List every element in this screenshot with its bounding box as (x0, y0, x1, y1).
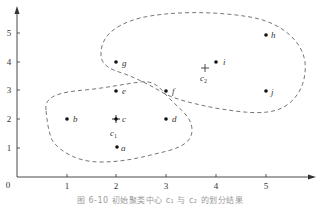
label-j: j (270, 87, 274, 97)
origin-label: 0 (6, 180, 11, 190)
label-h: h (271, 30, 276, 40)
label-b: b (73, 114, 78, 124)
label-c: c (122, 114, 126, 124)
center-c2-cross-icon (201, 64, 209, 72)
y-axis-arrow-icon (15, 6, 20, 14)
label-c1: c1 (110, 128, 117, 139)
point-f (164, 89, 168, 93)
point-i (214, 60, 218, 64)
cluster-2-boundary (101, 13, 305, 113)
y-ticks (17, 33, 20, 148)
label-i: i (223, 57, 226, 67)
point-h (264, 33, 268, 37)
label-a: a (121, 143, 126, 153)
label-c2: c2 (200, 73, 207, 84)
x-tick-label-1: 1 (65, 181, 70, 191)
point-j (264, 89, 268, 93)
point-b (65, 117, 69, 121)
x-axis-arrow-icon (308, 175, 316, 180)
cluster-diagram: 0 1 2 3 4 5 1 2 3 4 5 a b c d e f g h i … (0, 0, 320, 205)
point-a (115, 145, 119, 149)
label-f: f (172, 86, 176, 96)
y-tick-label-5: 5 (7, 28, 12, 38)
label-e: e (122, 86, 126, 96)
label-d: d (172, 114, 177, 124)
data-points (65, 33, 268, 149)
y-tick-label-4: 4 (7, 57, 12, 67)
x-tick-label-5: 5 (264, 181, 269, 191)
center-c1-cross-icon (112, 115, 120, 123)
x-tick-label-4: 4 (214, 181, 219, 191)
point-d (164, 117, 168, 121)
y-tick-label-2: 2 (7, 114, 12, 124)
label-g: g (122, 58, 127, 68)
y-tick-label-1: 1 (7, 143, 12, 153)
point-g (114, 60, 118, 64)
point-e (114, 89, 118, 93)
cluster-1-boundary (46, 82, 192, 162)
figure-caption: 图 6-10 初始聚类中心 c₁ 与 c₂ 的划分结果 (0, 194, 320, 205)
x-tick-label-3: 3 (164, 181, 169, 191)
y-tick-label-3: 3 (7, 85, 12, 95)
x-tick-label-2: 2 (114, 181, 119, 191)
